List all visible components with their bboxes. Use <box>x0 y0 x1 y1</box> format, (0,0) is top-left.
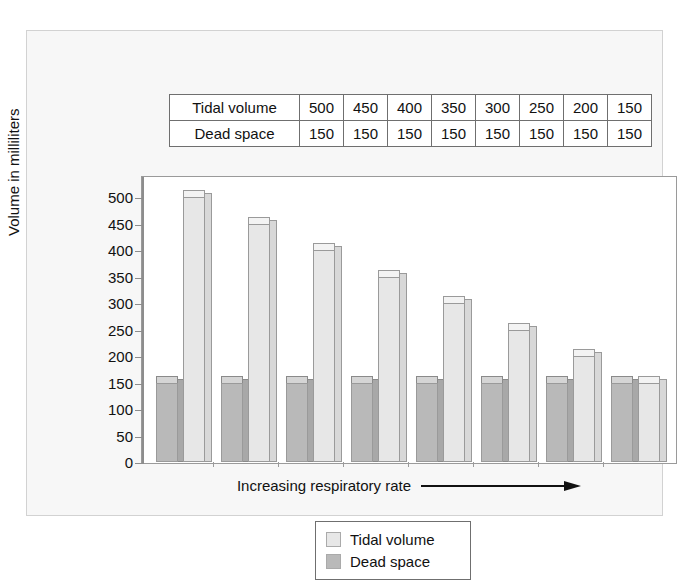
bar-front-face <box>638 383 660 463</box>
bar-front-face <box>416 383 438 463</box>
x-axis-tick <box>343 462 344 467</box>
figure-frame: Tidal volume500450400350300250200150Dead… <box>26 30 663 516</box>
y-axis-tick <box>135 251 143 252</box>
y-axis-tick <box>135 357 143 358</box>
bar-front-face <box>546 383 568 463</box>
table-cell: 150 <box>608 121 652 147</box>
bar-dead-space <box>221 383 243 463</box>
legend: Tidal volume Dead space <box>315 521 471 580</box>
bar-front-face <box>313 250 335 462</box>
y-axis-tick <box>135 384 143 385</box>
bar-top-face <box>546 376 568 383</box>
table-cell: 250 <box>520 95 564 121</box>
bar-dead-space <box>416 383 438 463</box>
bar-side-face <box>205 193 212 462</box>
table-cell: 150 <box>300 121 344 147</box>
bar-top-face <box>378 270 400 277</box>
y-axis-tick-label: 250 <box>81 323 133 338</box>
x-axis-tick <box>213 462 214 467</box>
legend-label-dead-space: Dead space <box>350 553 430 570</box>
bar-dead-space <box>286 383 308 463</box>
bar-front-face <box>183 197 205 462</box>
bar-front-face <box>248 224 270 463</box>
table-cell: 300 <box>476 95 520 121</box>
legend-item-tidal-volume: Tidal volume <box>326 528 460 550</box>
table-cell: 400 <box>388 95 432 121</box>
bar-front-face <box>508 330 530 463</box>
table-cell: 150 <box>344 121 388 147</box>
bar-tidal-volume <box>378 277 400 463</box>
bar-top-face <box>481 376 503 383</box>
bar-front-face <box>573 356 595 462</box>
bar-side-face <box>660 379 667 463</box>
bar-tidal-volume <box>248 224 270 463</box>
data-table-body: Tidal volume500450400350300250200150Dead… <box>170 95 652 147</box>
bar-front-face <box>378 277 400 463</box>
legend-item-dead-space: Dead space <box>326 550 460 572</box>
bar-front-face <box>156 383 178 463</box>
x-axis-tick <box>603 462 604 467</box>
bar-top-face <box>573 349 595 356</box>
x-axis-tick <box>278 462 279 467</box>
table-cell: 150 <box>608 95 652 121</box>
y-axis-tick-label: 500 <box>81 190 133 205</box>
bar-side-face <box>595 352 602 462</box>
y-axis-tick-label: 300 <box>81 296 133 311</box>
bar-tidal-volume <box>573 356 595 462</box>
table-cell: 200 <box>564 95 608 121</box>
bar-top-face <box>351 376 373 383</box>
y-axis-tick-label: 450 <box>81 217 133 232</box>
bar-top-face <box>416 376 438 383</box>
bar-tidal-volume <box>443 303 465 462</box>
table-cell: 150 <box>476 121 520 147</box>
bar-top-face <box>443 296 465 303</box>
y-axis-tick <box>135 410 143 411</box>
table-cell: 150 <box>388 121 432 147</box>
bar-front-face <box>286 383 308 463</box>
table-row: Tidal volume500450400350300250200150 <box>170 95 652 121</box>
bar-front-face <box>481 383 503 463</box>
bar-top-face <box>156 376 178 383</box>
table-row-label: Dead space <box>170 121 300 147</box>
y-axis-title: Volume in milliliters <box>5 108 22 236</box>
table-row: Dead space150150150150150150150150 <box>170 121 652 147</box>
bar-side-face <box>530 326 537 463</box>
x-axis-tick <box>538 462 539 467</box>
x-axis-caption-label: Increasing respiratory rate <box>237 477 411 494</box>
bar-dead-space <box>481 383 503 463</box>
arrow-right-icon <box>421 480 581 492</box>
plot-inner <box>142 177 676 463</box>
bar-side-face <box>465 299 472 462</box>
bar-top-face <box>183 190 205 197</box>
table-cell: 450 <box>344 95 388 121</box>
bar-top-face <box>313 243 335 250</box>
bar-tidal-volume <box>508 330 530 463</box>
bar-side-face <box>270 220 277 463</box>
bar-top-face <box>638 376 660 383</box>
y-axis-tick-label: 150 <box>81 376 133 391</box>
bar-dead-space <box>611 383 633 463</box>
x-axis-tick <box>408 462 409 467</box>
y-axis-tick-label: 350 <box>81 270 133 285</box>
bar-tidal-volume <box>313 250 335 462</box>
bar-front-face <box>221 383 243 463</box>
bar-side-face <box>335 246 342 462</box>
y-axis-tick <box>135 198 143 199</box>
table-cell: 500 <box>300 95 344 121</box>
bar-tidal-volume <box>183 197 205 462</box>
legend-label-tidal-volume: Tidal volume <box>350 531 434 548</box>
data-table: Tidal volume500450400350300250200150Dead… <box>169 94 652 147</box>
bar-tidal-volume <box>638 383 660 463</box>
table-cell: 150 <box>432 121 476 147</box>
x-axis-tick <box>473 462 474 467</box>
table-cell: 150 <box>564 121 608 147</box>
legend-swatch-dead-space <box>326 554 341 569</box>
y-axis-tick-label: 100 <box>81 402 133 417</box>
bar-dead-space <box>156 383 178 463</box>
y-axis-tick-label: 0 <box>81 455 133 470</box>
bar-front-face <box>351 383 373 463</box>
bar-dead-space <box>546 383 568 463</box>
y-axis-tick-label: 400 <box>81 243 133 258</box>
bar-top-face <box>248 217 270 224</box>
y-axis-tick <box>135 463 143 464</box>
